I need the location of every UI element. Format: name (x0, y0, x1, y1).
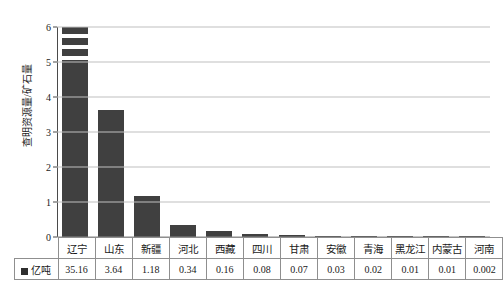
table-value-河北: 0.34 (169, 259, 206, 280)
table-value-甘肃: 0.07 (280, 259, 317, 280)
table-header-甘肃: 甘肃 (280, 238, 317, 259)
y-axis-title: 查明资源量/矿石量 (19, 36, 34, 176)
table-header-青海: 青海 (355, 238, 392, 259)
gridline-1 (57, 202, 490, 203)
table-row-categories: 辽宁山东新疆河北西藏四川甘肃安徽青海黑龙江内蒙古河南 (15, 238, 503, 259)
data-table: 辽宁山东新疆河北西藏四川甘肃安徽青海黑龙江内蒙古河南 亿吨 35.163.641… (14, 237, 503, 280)
gridline-4 (57, 97, 490, 98)
table-value-青海: 0.02 (355, 259, 392, 280)
table-value-辽宁: 35.16 (58, 259, 95, 280)
bar-河北 (170, 225, 196, 237)
table-value-山东: 3.64 (95, 259, 132, 280)
y-tick-label-2: 2 (46, 162, 51, 173)
table-header-黑龙江: 黑龙江 (392, 238, 429, 259)
table-header-辽宁: 辽宁 (58, 238, 95, 259)
table-header-河南: 河南 (466, 238, 503, 259)
legend-cell: 亿吨 (15, 259, 59, 280)
table-header-内蒙古: 内蒙古 (429, 238, 466, 259)
legend-swatch-icon (21, 268, 28, 275)
chart-root: 查明资源量/矿石量 0123456 辽宁山东新疆河北西藏四川甘肃安徽青海黑龙江内… (0, 0, 504, 286)
table-header-安徽: 安徽 (318, 238, 355, 259)
table-header-四川: 四川 (243, 238, 280, 259)
gridline-5 (57, 62, 490, 63)
gridline-6 (57, 27, 490, 28)
y-tick-label-1: 1 (46, 197, 51, 208)
table-header-山东: 山东 (95, 238, 132, 259)
y-tick-label-3: 3 (46, 127, 51, 138)
table-corner-cell (15, 238, 59, 259)
table-header-河北: 河北 (169, 238, 206, 259)
gridline-2 (57, 167, 490, 168)
legend-label: 亿吨 (31, 265, 51, 276)
table-row-values: 亿吨 35.163.641.180.340.160.080.070.030.02… (15, 259, 503, 280)
table-value-河南: 0.002 (466, 259, 503, 280)
table-value-黑龙江: 0.01 (392, 259, 429, 280)
bar-山东 (98, 110, 124, 237)
y-tick-label-4: 4 (46, 92, 51, 103)
table-value-西藏: 0.16 (206, 259, 243, 280)
table-header-新疆: 新疆 (132, 238, 169, 259)
gridline-3 (57, 132, 490, 133)
y-tick-label-5: 5 (46, 57, 51, 68)
y-tick-label-6: 6 (46, 22, 51, 33)
table-value-安徽: 0.03 (318, 259, 355, 280)
table-value-四川: 0.08 (243, 259, 280, 280)
table-value-新疆: 1.18 (132, 259, 169, 280)
table-header-西藏: 西藏 (206, 238, 243, 259)
plot-area: 0123456 (57, 27, 490, 237)
table-value-内蒙古: 0.01 (429, 259, 466, 280)
